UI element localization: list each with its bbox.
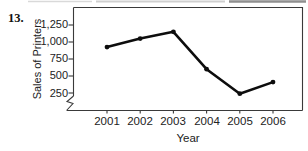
x-axis-label: Year [156,132,220,144]
x-tick-label: 2002 [123,115,157,127]
data-point-marker [138,36,143,41]
y-tick-label: 1,000 [28,35,68,47]
y-tick-label: 750 [28,52,68,64]
data-point-marker [271,80,276,85]
data-series [105,29,276,96]
x-tick-label: 2001 [90,115,124,127]
x-tick-label: 2004 [190,115,224,127]
x-tick-label: 2005 [223,115,257,127]
y-tick-label: 500 [28,69,68,81]
y-tick-label: 1,250 [28,18,68,30]
textbook-exercise-figure: 13. Sales of Printers 1,250 1,000 750 50… [0,0,308,151]
y-axis-ticks [69,25,74,93]
data-line [107,32,273,94]
x-tick-label: 2006 [256,115,290,127]
plot-border [67,8,303,111]
data-point-marker [237,91,242,96]
data-point-marker [105,45,110,50]
y-tick-label: 250 [28,87,68,99]
data-point-marker [171,29,176,34]
x-tick-label: 2003 [156,115,190,127]
data-point-marker [204,67,209,72]
